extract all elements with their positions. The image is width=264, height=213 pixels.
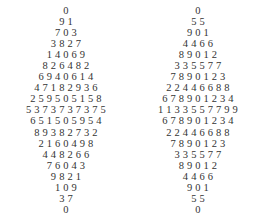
digit-row: 0 <box>0 204 132 213</box>
digit-row: 1 4 0 6 9 <box>0 49 132 60</box>
digit-row: 1 0 9 <box>0 182 132 193</box>
digit-row: 4 7 1 8 2 9 3 6 <box>0 82 132 93</box>
digit-row: 7 0 3 <box>0 27 132 38</box>
digit-row: 2 2 4 4 6 6 8 8 <box>132 127 264 138</box>
digit-row: 8 2 6 4 8 2 <box>0 60 132 71</box>
digit-row: 8 9 0 1 2 <box>132 49 264 60</box>
digit-row: 6 9 4 0 6 1 4 <box>0 71 132 82</box>
digit-row: 8 9 0 1 2 <box>132 160 264 171</box>
digit-row: 0 <box>0 5 132 16</box>
digit-row: 5 5 <box>132 193 264 204</box>
digit-row: 3 3 5 5 7 7 <box>132 60 264 71</box>
digit-row: 4 4 6 6 <box>132 38 264 49</box>
digit-row: 6 5 1 5 0 5 9 5 4 <box>0 115 132 126</box>
left-number-diamond: 09 17 0 33 8 2 71 4 0 6 98 2 6 4 8 26 9 … <box>0 5 132 213</box>
digit-row: 2 5 9 5 0 5 1 5 8 <box>0 93 132 104</box>
digit-row: 4 4 8 2 6 6 <box>0 149 132 160</box>
digit-row: 9 0 1 <box>132 182 264 193</box>
digit-row: 3 3 5 5 7 7 <box>132 149 264 160</box>
right-number-diamond: 05 59 0 14 4 6 68 9 0 1 23 3 5 5 7 77 8 … <box>132 5 264 213</box>
digit-row: 4 4 6 6 <box>132 171 264 182</box>
digit-row: 9 8 2 1 <box>0 171 132 182</box>
digit-row: 9 0 1 <box>132 27 264 38</box>
digit-row: 0 <box>132 5 264 16</box>
digit-row: 8 9 3 8 2 7 3 2 <box>0 127 132 138</box>
digit-row: 0 <box>132 204 264 213</box>
digit-row: 6 7 8 9 0 1 2 3 4 <box>132 93 264 104</box>
digit-row: 5 3 7 3 7 3 7 3 7 5 <box>0 104 132 115</box>
digit-row: 3 8 2 7 <box>0 38 132 49</box>
digit-row: 6 7 8 9 0 1 2 3 4 <box>132 115 264 126</box>
digit-row: 7 6 0 4 3 <box>0 160 132 171</box>
digit-row: 2 2 4 4 6 6 8 8 <box>132 82 264 93</box>
digit-row: 3 7 <box>0 193 132 204</box>
digit-row: 7 8 9 0 1 2 3 <box>132 138 264 149</box>
digit-row: 1 1 3 3 5 5 7 7 9 9 <box>132 104 264 115</box>
digit-row: 7 8 9 0 1 2 3 <box>132 71 264 82</box>
digit-row: 2 1 6 0 4 9 8 <box>0 138 132 149</box>
digit-row: 9 1 <box>0 16 132 27</box>
digit-row: 5 5 <box>132 16 264 27</box>
